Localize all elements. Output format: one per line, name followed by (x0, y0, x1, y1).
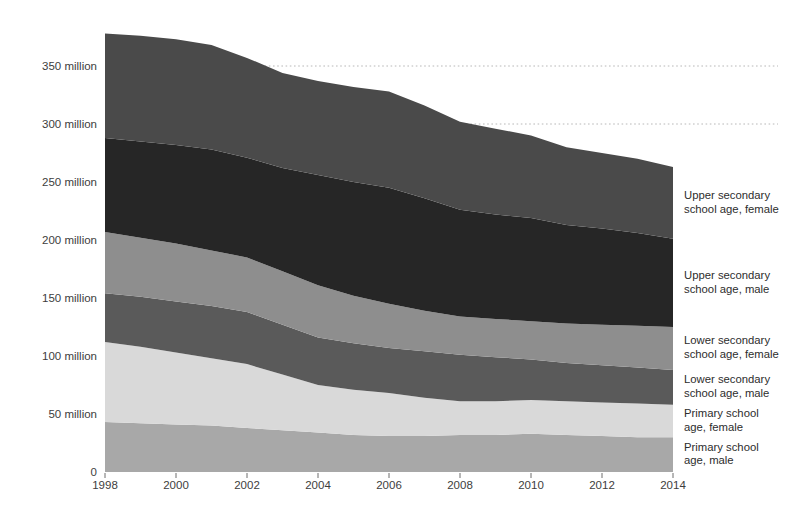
x-axis-label-2000: 2000 (163, 479, 189, 491)
series-label-primary-school-age-male: Primary schoolage, male (684, 441, 759, 469)
y-axis-label-300: 300 million (0, 118, 97, 130)
y-axis-label-200: 200 million (0, 234, 97, 246)
x-axis-label-2014: 2014 (660, 479, 686, 491)
x-axis-label-2008: 2008 (447, 479, 473, 491)
x-axis-label-2006: 2006 (376, 479, 402, 491)
x-axis-label-2012: 2012 (589, 479, 615, 491)
y-axis-label-150: 150 million (0, 292, 97, 304)
series-label-lower-secondary-school-age-male: Lower secondaryschool age, male (684, 374, 770, 402)
y-axis-label-50: 50 million (0, 408, 97, 420)
stacked-area-plot (0, 0, 803, 524)
x-axis-label-2004: 2004 (305, 479, 331, 491)
x-axis-label-1998: 1998 (92, 479, 118, 491)
series-label-primary-school-age-female: Primary schoolage, female (684, 407, 759, 435)
series-label-upper-secondary-school-age-female: Upper secondaryschool age, female (684, 189, 779, 217)
x-axis-label-2002: 2002 (234, 479, 260, 491)
series-label-upper-secondary-school-age-male: Upper secondaryschool age, male (684, 269, 770, 297)
y-axis-label-350: 350 million (0, 60, 97, 72)
out-of-school-stacked-area-chart: 050 million100 million150 million200 mil… (0, 0, 803, 524)
series-label-lower-secondary-school-age-female: Lower secondaryschool age, female (684, 335, 779, 363)
y-axis-label-100: 100 million (0, 350, 97, 362)
y-axis-label-250: 250 million (0, 176, 97, 188)
y-axis-label-0: 0 (0, 466, 97, 478)
x-axis-label-2010: 2010 (518, 479, 544, 491)
